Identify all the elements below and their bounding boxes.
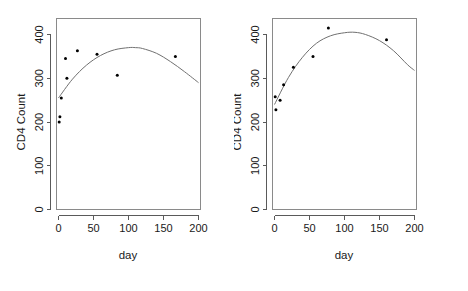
y-axis-title-right: CD4 Count [234, 93, 243, 151]
y-tick-label-200-right: 200 [249, 113, 261, 131]
x-tick-label-50-right: 50 [303, 222, 315, 234]
x-tick-label-150-left: 150 [154, 222, 172, 234]
data-point-group-left [58, 49, 177, 123]
x-tick-label-0-left: 0 [55, 222, 61, 234]
x-tick-label-50-left: 50 [87, 222, 99, 234]
chart-panel-right: 0 100 200 300 400 CD4 Count 0 50 100 150… [234, 0, 468, 291]
plot-svg-left: 0 100 200 300 400 CD4 Count 0 50 100 150… [0, 0, 234, 291]
data-point [385, 38, 388, 41]
chart-panel-left: 0 100 200 300 400 CD4 Count 0 50 100 150… [0, 0, 234, 291]
data-point [116, 74, 119, 77]
y-tick-label-0-right: 0 [249, 206, 261, 212]
x-tick-label-200-right: 200 [405, 222, 423, 234]
plot-svg-right: 0 100 200 300 400 CD4 Count 0 50 100 150… [234, 0, 468, 291]
data-point [274, 95, 277, 98]
data-point [279, 99, 282, 102]
x-axis-title-right: day [335, 249, 354, 261]
y-tick-label-300-right: 300 [249, 69, 261, 87]
x-tick-label-100-left: 100 [119, 222, 137, 234]
fit-curve-right [275, 32, 415, 104]
y-tick-label-0-left: 0 [33, 206, 45, 212]
data-point [96, 53, 99, 56]
y-tick-label-400-left: 400 [33, 25, 45, 43]
data-point [58, 121, 61, 124]
x-tick-label-150-right: 150 [370, 222, 388, 234]
data-point [174, 55, 177, 58]
y-axis-title-left: CD4 Count [15, 93, 27, 151]
data-point [58, 115, 61, 118]
x-tick-label-100-right: 100 [335, 222, 353, 234]
x-tick-label-0-right: 0 [271, 222, 277, 234]
y-tick-label-100-left: 100 [33, 157, 45, 175]
figure-canvas: 0 100 200 300 400 CD4 Count 0 50 100 150… [0, 0, 468, 291]
plot-frame-right [273, 19, 417, 210]
data-point-group-right [274, 26, 388, 111]
fit-curve-left [59, 47, 199, 98]
data-point [76, 49, 79, 52]
data-point [60, 96, 63, 99]
data-point [282, 83, 285, 86]
data-point [312, 55, 315, 58]
data-point [274, 108, 277, 111]
y-tick-label-200-left: 200 [33, 113, 45, 131]
x-axis-title-left: day [119, 249, 138, 261]
y-tick-label-300-left: 300 [33, 69, 45, 87]
y-tick-label-400-right: 400 [249, 25, 261, 43]
data-point [327, 26, 330, 29]
y-tick-label-100-right: 100 [249, 157, 261, 175]
data-point [65, 77, 68, 80]
data-point [292, 66, 295, 69]
x-tick-label-200-left: 200 [189, 222, 207, 234]
data-point [64, 57, 67, 60]
